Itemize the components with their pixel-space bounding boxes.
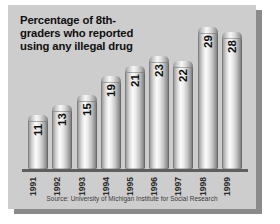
bar-slot: 28 (222, 17, 242, 169)
bar-slot: 22 (173, 17, 193, 169)
plot-area: 111315192123222928 (26, 17, 244, 169)
chart-figure: Percentage of 8th- graders who reported … (0, 0, 280, 224)
bar-slot: 11 (28, 17, 48, 169)
bar-slot: 21 (125, 17, 145, 169)
bar-value-label: 15 (77, 99, 97, 121)
bar-slot: 13 (52, 17, 72, 169)
chart-panel: Percentage of 8th- graders who reported … (8, 5, 256, 209)
bar-value-label: 19 (101, 80, 121, 102)
bar-slot: 29 (198, 17, 218, 169)
bar-value-label: 28 (222, 36, 242, 58)
bar-value-label: 21 (125, 70, 145, 92)
source-note: Source: University of Michigan Institute… (8, 195, 256, 202)
bar-value-label: 29 (198, 31, 218, 53)
bar-value-label: 22 (173, 65, 193, 87)
bar-value-label: 23 (149, 60, 169, 82)
bar-slot: 15 (77, 17, 97, 169)
bar-value-label: 11 (28, 119, 48, 141)
x-axis-baseline (22, 169, 248, 172)
bar-slot: 19 (101, 17, 121, 169)
bar-slot: 23 (149, 17, 169, 169)
bar-value-label: 13 (52, 109, 72, 131)
